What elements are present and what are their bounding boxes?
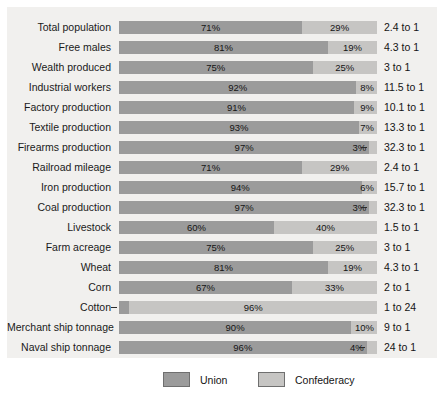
row-ratio: 1.5 to 1	[384, 217, 419, 237]
bar-segment-union: 81%	[119, 41, 328, 54]
bar-value-confederacy: 40%	[274, 221, 377, 234]
bar-segment-confederacy: 19%	[328, 41, 377, 54]
row-bar-track: 67%33%	[119, 281, 377, 294]
value-leader-line-icon	[359, 347, 365, 348]
chart-row: Cotton4%96%1 to 24	[7, 297, 437, 317]
row-ratio: 4.3 to 1	[384, 37, 419, 57]
bar-value-union: 75%	[119, 241, 313, 254]
bar-segment-union: 91%	[119, 101, 354, 114]
bar-value-confederacy: 8%	[360, 81, 374, 94]
row-bar-track: 71%29%	[119, 161, 377, 174]
chart-row: Wealth produced75%25%3 to 1	[7, 57, 437, 77]
bar-value-union: 71%	[119, 161, 302, 174]
bar-value-union: 71%	[119, 21, 302, 34]
bar-value-union: 90%	[119, 321, 351, 334]
bar-value-confederacy: 33%	[292, 281, 377, 294]
row-bar-track: 71%29%	[119, 21, 377, 34]
bar-value-confederacy: 10%	[355, 321, 374, 334]
row-ratio: 1 to 24	[384, 297, 416, 317]
legend-swatch-confederacy-icon	[258, 372, 285, 387]
row-bar-track: 93%7%	[119, 121, 377, 134]
value-leader-line-icon	[111, 307, 117, 308]
row-ratio: 13.3 to 1	[384, 117, 425, 137]
bar-segment-union: 92%	[119, 81, 356, 94]
bar-segment-union: 94%	[119, 181, 362, 194]
row-bar-track: 97%3%	[119, 201, 377, 214]
bar-value-confederacy: 9%	[360, 101, 374, 114]
row-ratio: 10.1 to 1	[384, 97, 425, 117]
row-ratio: 9 to 1	[384, 317, 410, 337]
bar-segment-confederacy: 8%	[356, 81, 377, 94]
row-bar-track: 60%40%	[119, 221, 377, 234]
row-bar-track: 4%96%	[119, 301, 377, 314]
row-ratio: 32.3 to 1	[384, 197, 425, 217]
bar-segment-union: 97%	[119, 141, 369, 154]
bar-segment-confederacy: 40%	[274, 221, 377, 234]
bar-value-confederacy: 19%	[328, 261, 377, 274]
bar-segment-confederacy: 9%	[354, 101, 377, 114]
row-bar-track: 91%9%	[119, 101, 377, 114]
bar-segment-confederacy: 29%	[302, 21, 377, 34]
bar-segment-union: 81%	[119, 261, 328, 274]
row-label: Industrial workers	[7, 77, 111, 97]
row-label: Wheat	[7, 257, 111, 277]
chart-row: Merchant ship tonnage90%10%9 to 1	[7, 317, 437, 337]
bar-value-union: 92%	[119, 81, 356, 94]
chart-row: Wheat81%19%4.3 to 1	[7, 257, 437, 277]
bar-segment-confederacy: 25%	[313, 241, 378, 254]
bar-value-union: 91%	[119, 101, 354, 114]
row-label: Livestock	[7, 217, 111, 237]
legend-swatch-union-icon	[163, 372, 190, 387]
value-leader-line-icon	[361, 147, 367, 148]
chart-row: Factory production91%9%10.1 to 1	[7, 97, 437, 117]
bar-segment-union: 67%	[119, 281, 292, 294]
bar-value-confederacy: 7%	[360, 121, 374, 134]
row-bar-track: 96%4%	[119, 341, 377, 354]
row-ratio: 24 to 1	[384, 337, 416, 357]
bar-segment-confederacy: 25%	[313, 61, 378, 74]
row-ratio: 15.7 to 1	[384, 177, 425, 197]
row-bar-track: 75%25%	[119, 241, 377, 254]
bar-segment-confederacy: 29%	[302, 161, 377, 174]
bar-segment-union: 93%	[119, 121, 359, 134]
row-bar-track: 75%25%	[119, 61, 377, 74]
row-bar-track: 81%19%	[119, 261, 377, 274]
row-bar-track: 90%10%	[119, 321, 377, 334]
bar-segment-confederacy: 6%	[362, 181, 377, 194]
bar-value-union: 97%	[119, 141, 369, 154]
bar-segment-confederacy: 3%	[369, 141, 377, 154]
value-leader-line-icon	[361, 207, 367, 208]
bar-value-confederacy: 6%	[360, 181, 374, 194]
row-label: Total population	[7, 17, 111, 37]
bar-segment-union: 75%	[119, 61, 313, 74]
bar-segment-confederacy: 4%	[367, 341, 377, 354]
row-label: Farm acreage	[7, 237, 111, 257]
chart-figure: Total population71%29%2.4 to 1Free males…	[0, 0, 444, 403]
row-label: Textile production	[7, 117, 111, 137]
row-ratio: 2.4 to 1	[384, 17, 419, 37]
bar-value-union: 81%	[119, 261, 328, 274]
bar-segment-confederacy: 19%	[328, 261, 377, 274]
chart-row: Livestock60%40%1.5 to 1	[7, 217, 437, 237]
row-ratio: 2 to 1	[384, 277, 410, 297]
row-label: Merchant ship tonnage	[7, 317, 111, 337]
row-ratio: 11.5 to 1	[384, 77, 424, 97]
chart-row: Farm acreage75%25%3 to 1	[7, 237, 437, 257]
bar-value-union: 81%	[119, 41, 328, 54]
bar-segment-confederacy: 3%	[369, 201, 377, 214]
bar-value-confederacy: 25%	[313, 61, 378, 74]
row-label: Corn	[7, 277, 111, 297]
chart-row: Textile production93%7%13.3 to 1	[7, 117, 437, 137]
bar-value-confederacy: 96%	[129, 301, 377, 314]
row-label: Cotton	[7, 297, 111, 317]
bar-segment-confederacy: 10%	[351, 321, 377, 334]
bar-segment-union: 90%	[119, 321, 351, 334]
bar-value-union: 93%	[119, 121, 359, 134]
chart-row: Naval ship tonnage96%4%24 to 1	[7, 337, 437, 357]
bar-value-union: 75%	[119, 61, 313, 74]
chart-row: Corn67%33%2 to 1	[7, 277, 437, 297]
bar-segment-union: 97%	[119, 201, 369, 214]
chart-row: Iron production94%6%15.7 to 1	[7, 177, 437, 197]
bar-segment-union: 75%	[119, 241, 313, 254]
legend-label-confederacy: Confederacy	[295, 370, 355, 390]
